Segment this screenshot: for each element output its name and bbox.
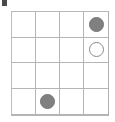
grid-screenshot-canvas: [0, 0, 115, 122]
grid-cell-r3c1[interactable]: [12, 63, 36, 89]
grid-cell-r1c3[interactable]: [60, 12, 84, 38]
grid-cell-r4c2[interactable]: [36, 89, 60, 115]
grid-cell-r3c4[interactable]: [84, 63, 108, 89]
grid-cell-r2c4[interactable]: [84, 38, 108, 64]
corner-mark-artifact: [2, 0, 7, 6]
grid-cell-r4c1[interactable]: [12, 89, 36, 115]
grid-cell-r3c3[interactable]: [60, 63, 84, 89]
open-circle-piece[interactable]: [89, 42, 104, 57]
grid-cell-r2c2[interactable]: [36, 38, 60, 64]
filled-circle-piece[interactable]: [40, 94, 55, 109]
grid-cell-r1c4[interactable]: [84, 12, 108, 38]
grid-cell-r1c1[interactable]: [12, 12, 36, 38]
grid-cell-r1c2[interactable]: [36, 12, 60, 38]
grid-board[interactable]: [11, 11, 109, 116]
filled-circle-piece[interactable]: [89, 17, 104, 32]
grid-cell-r3c2[interactable]: [36, 63, 60, 89]
grid-cell-r2c1[interactable]: [12, 38, 36, 64]
grid-cell-r4c4[interactable]: [84, 89, 108, 115]
grid-cell-r2c3[interactable]: [60, 38, 84, 64]
grid-cell-r4c3[interactable]: [60, 89, 84, 115]
